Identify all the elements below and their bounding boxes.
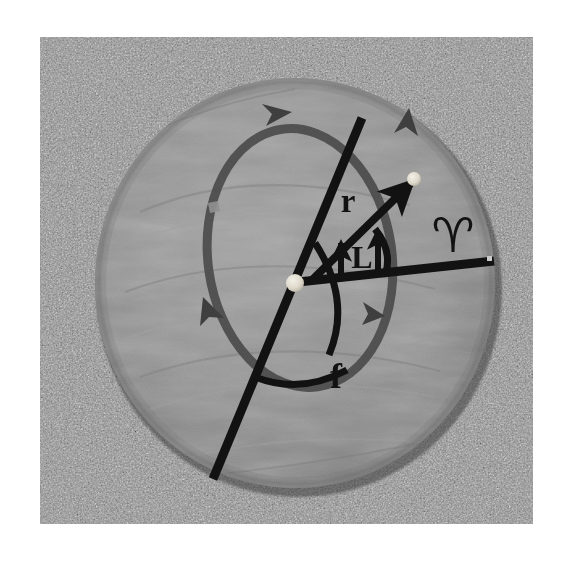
photograph: r L f ♈ bbox=[40, 37, 533, 524]
screenshot-root: r L f ♈ bbox=[0, 0, 572, 561]
photo-canvas: r L f ♈ bbox=[40, 37, 533, 524]
film-grain bbox=[40, 37, 533, 524]
